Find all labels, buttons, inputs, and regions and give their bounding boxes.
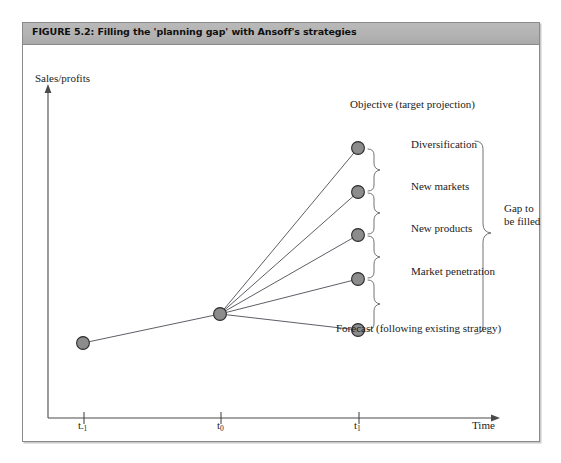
line-new-markets xyxy=(220,235,358,314)
x-tick-t-0: t0 xyxy=(217,419,224,431)
strategy-braces xyxy=(368,149,380,330)
gap-annotation-line2: be filled xyxy=(504,215,540,227)
tick-subscript: -1 xyxy=(81,424,87,433)
tick-subscript: 0 xyxy=(220,424,224,433)
node-t-minus-1 xyxy=(77,337,90,350)
figure-title: FIGURE 5.2: Filling the 'planning gap' w… xyxy=(32,26,357,37)
axis-lines xyxy=(45,84,500,421)
brace-new-products xyxy=(368,236,380,278)
line-historic xyxy=(83,314,220,343)
strategy-label-market-penetration: Market penetration xyxy=(411,265,495,278)
x-axis-label: Time xyxy=(472,419,495,432)
x-tick-t-1: t1 xyxy=(354,419,361,431)
line-diversification xyxy=(220,192,358,314)
node-new-markets xyxy=(352,229,365,242)
figure-title-bar: FIGURE 5.2: Filling the 'planning gap' w… xyxy=(23,23,539,45)
plot-area: Sales/profits Objective (target projecti… xyxy=(23,45,539,441)
gap-annotation: Gap to be filled xyxy=(504,202,540,229)
brace-diversification xyxy=(368,149,380,191)
tick-subscript: 1 xyxy=(357,424,361,433)
strategy-label-diversification: Diversification xyxy=(411,138,477,151)
node-t0 xyxy=(214,308,227,321)
data-point-nodes xyxy=(77,142,365,350)
node-objective xyxy=(352,142,365,155)
node-diversification xyxy=(352,186,365,199)
objective-annotation: Objective (target projection) xyxy=(350,98,475,111)
brace-new-markets xyxy=(368,193,380,234)
y-axis-label: Sales/profits xyxy=(35,72,90,85)
node-new-products xyxy=(352,273,365,286)
strategy-label-new-markets: New markets xyxy=(411,180,469,193)
line-objective xyxy=(220,148,358,314)
forecast-annotation: Forecast (following existing strategy) xyxy=(336,322,501,335)
gap-annotation-line1: Gap to xyxy=(504,202,534,214)
figure-panel: FIGURE 5.2: Filling the 'planning gap' w… xyxy=(22,22,540,442)
line-new-products xyxy=(220,279,358,314)
strategy-label-new-products: New products xyxy=(411,222,472,235)
gap-brace xyxy=(475,141,491,334)
x-tick-t-minus-1: t-1 xyxy=(78,419,87,431)
